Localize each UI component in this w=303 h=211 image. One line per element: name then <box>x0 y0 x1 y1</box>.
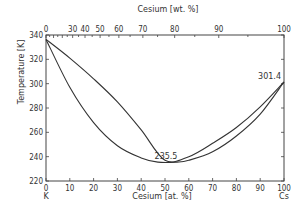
x-top-tick-label: 90 <box>214 25 224 34</box>
y-tick-label: 260 <box>29 128 43 137</box>
x-tick-label: 30 <box>113 184 123 193</box>
x-top-tick-label: 70 <box>138 25 148 34</box>
cs-melting-point-annotation: 301.4 <box>258 72 281 81</box>
x-top-tick-label: 100 <box>277 25 291 34</box>
annotations: 235.5301.4 <box>155 72 281 161</box>
liquidus-curve <box>46 39 284 162</box>
x-top-tick-label: 80 <box>170 25 180 34</box>
y-tick-label: 280 <box>29 104 43 113</box>
right-endpoint-label: Cs <box>279 192 289 201</box>
x-top-tick-label: 30 <box>68 25 78 34</box>
x-top-tick-label: 50 <box>96 25 106 34</box>
minimum-annotation: 235.5 <box>155 152 178 161</box>
curves <box>46 39 284 162</box>
phase-diagram-chart: 0102030405060708090100 03040506070809010… <box>0 0 303 211</box>
x-top-tick-label: 60 <box>114 25 124 34</box>
x-top-tick-label: 40 <box>80 25 90 34</box>
x-tick-label: 90 <box>256 184 266 193</box>
solidus-curve <box>46 39 284 162</box>
y-axis-label: Temperature [K] <box>17 40 26 106</box>
y-tick-label: 220 <box>29 177 43 186</box>
x-tick-label: 80 <box>232 184 242 193</box>
y-tick-label: 300 <box>29 80 43 89</box>
x-axis-top-label: Cesium [wt. %] <box>138 5 199 14</box>
y-tick-label: 240 <box>29 153 43 162</box>
x-axis-bottom: 0102030405060708090100 <box>44 178 292 193</box>
x-axis-label: Cesium [at. %] <box>132 192 191 201</box>
x-tick-label: 10 <box>65 184 75 193</box>
left-endpoint-label: K <box>43 192 49 201</box>
x-tick-label: 20 <box>89 184 99 193</box>
x-tick-label: 70 <box>208 184 218 193</box>
y-tick-label: 340 <box>29 31 43 40</box>
x-top-tick-label: 0 <box>44 25 49 34</box>
y-tick-label: 320 <box>29 55 43 64</box>
x-axis-top: 030405060708090100 <box>44 25 292 38</box>
